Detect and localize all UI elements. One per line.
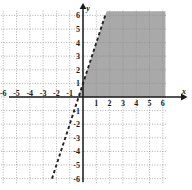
coordinate-graph: -6-5-4-3-2-1123456654321-1-2-3-4-5-6 x y: [0, 0, 192, 190]
y-tick-label: -6: [73, 175, 80, 184]
y-tick-label: 3: [76, 52, 80, 61]
y-tick-label: -4: [73, 147, 80, 156]
y-tick-label: -5: [73, 161, 80, 170]
x-tick-label: 4: [134, 99, 138, 108]
x-tick-label: -2: [53, 89, 60, 98]
x-tick-label: -4: [26, 89, 33, 98]
x-tick-label: 1: [94, 99, 98, 108]
y-tick-label: 4: [76, 39, 80, 48]
x-tick-label: -5: [13, 89, 20, 98]
x-axis-label: x: [181, 87, 186, 96]
y-tick-label: -1: [73, 107, 80, 116]
y-tick-label: -2: [73, 120, 80, 129]
y-tick-label: 5: [76, 25, 80, 34]
x-tick-label: -6: [0, 89, 7, 98]
y-tick-label: 1: [76, 79, 80, 88]
x-tick-label: -1: [66, 89, 73, 98]
x-tick-label: 3: [121, 99, 125, 108]
x-tick-label: 6: [161, 99, 165, 108]
y-tick-label: 6: [76, 11, 80, 20]
x-tick-label: 2: [108, 99, 112, 108]
y-tick-label: 2: [76, 66, 80, 75]
x-tick-label: 5: [148, 99, 152, 108]
x-tick-label: -3: [40, 89, 47, 98]
y-axis-label: y: [85, 4, 90, 13]
graph-canvas: -6-5-4-3-2-1123456654321-1-2-3-4-5-6 x y: [0, 0, 192, 190]
y-tick-label: -3: [73, 134, 80, 143]
